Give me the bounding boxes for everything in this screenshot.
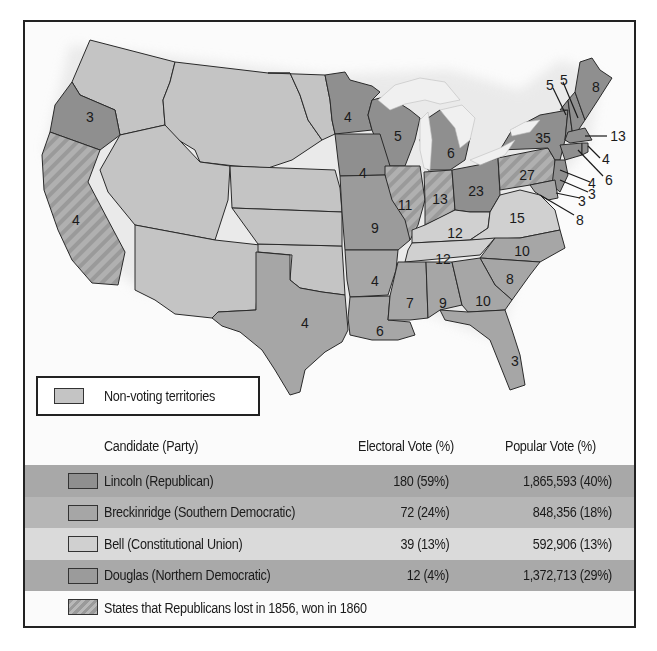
- label-or: 3: [86, 109, 94, 125]
- popular-vote: 1,865,593 (40%): [523, 473, 612, 489]
- candidate-name: Bell (Constitutional Union): [104, 536, 242, 552]
- label-mn: 4: [344, 109, 352, 125]
- header-electoral: Electoral Vote (%): [358, 438, 454, 464]
- label-ar: 4: [371, 273, 379, 289]
- label-de: 3: [588, 186, 596, 202]
- label-ca: 4: [72, 212, 80, 228]
- douglas-swatch: [68, 568, 98, 584]
- candidate-name: Lincoln (Republican): [104, 473, 213, 489]
- state-ri: [582, 143, 588, 155]
- label-me: 8: [592, 79, 600, 95]
- electoral-vote: 12 (4%): [407, 567, 449, 583]
- electoral-vote: 180 (59%): [393, 473, 449, 489]
- label-ky: 12: [447, 225, 463, 241]
- label-la: 6: [376, 323, 384, 339]
- label-md-a: 3: [578, 193, 586, 209]
- state-fl: [440, 310, 525, 390]
- label-ms: 7: [406, 295, 414, 311]
- header-popular: Popular Vote (%): [505, 438, 596, 464]
- striped-swatch: [68, 599, 98, 615]
- label-mi: 6: [447, 145, 455, 161]
- lincoln-swatch: [68, 473, 98, 489]
- popular-vote: 1,372,713 (29%): [523, 567, 612, 583]
- label-tn: 12: [435, 251, 451, 267]
- row-bell: Bell (Constitutional Union) 39 (13%) 592…: [25, 528, 634, 560]
- label-va: 15: [509, 210, 525, 226]
- label-oh: 23: [468, 183, 484, 199]
- territories-legend: Non-voting territories: [36, 376, 260, 416]
- label-ga: 10: [475, 293, 491, 309]
- striped-label: States that Republicans lost in 1856, wo…: [104, 600, 367, 616]
- label-fl: 3: [511, 353, 519, 369]
- row-lincoln: Lincoln (Republican) 180 (59%) 1,865,593…: [25, 465, 634, 497]
- label-ct: 6: [605, 172, 613, 188]
- label-mo: 9: [371, 220, 379, 236]
- header-candidate: Candidate (Party): [104, 438, 198, 464]
- label-sc: 8: [506, 271, 514, 287]
- label-pa: 27: [519, 167, 535, 183]
- label-wi: 5: [394, 128, 402, 144]
- results-table: Lincoln (Republican) 180 (59%) 1,865,593…: [25, 465, 634, 624]
- label-md: 8: [576, 212, 584, 228]
- territories-swatch: [54, 388, 84, 404]
- label-ma: 13: [610, 128, 626, 144]
- label-nc: 10: [514, 243, 530, 259]
- electoral-vote: 72 (24%): [400, 504, 449, 520]
- bell-swatch: [68, 536, 98, 552]
- row-douglas: Douglas (Northern Democratic) 12 (4%) 1,…: [25, 560, 634, 592]
- candidate-name: Breckinridge (Southern Democratic): [104, 504, 295, 520]
- breckinridge-swatch: [68, 505, 98, 521]
- label-nh: 5: [560, 72, 568, 88]
- row-striped: States that Republicans lost in 1856, wo…: [25, 591, 634, 624]
- row-breckinridge: Breckinridge (Southern Democratic) 72 (2…: [25, 497, 634, 529]
- label-vt: 5: [546, 77, 554, 93]
- label-al: 9: [439, 295, 447, 311]
- label-ia: 4: [359, 165, 367, 181]
- electoral-vote: 39 (13%): [400, 536, 449, 552]
- territories-label: Non-voting territories: [104, 388, 215, 404]
- popular-vote: 848,356 (18%): [533, 504, 612, 520]
- label-il: 11: [398, 197, 413, 213]
- label-in: 13: [432, 191, 448, 207]
- label-tx: 4: [301, 315, 309, 331]
- candidate-name: Douglas (Northern Democratic): [104, 567, 271, 583]
- label-ny: 35: [535, 130, 551, 146]
- label-ri: 4: [602, 151, 610, 167]
- popular-vote: 592,906 (13%): [533, 536, 612, 552]
